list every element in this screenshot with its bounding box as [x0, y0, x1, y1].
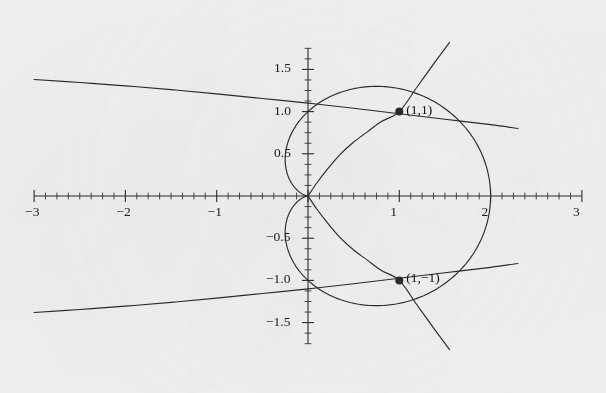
y-tick-label: 0.5	[274, 145, 291, 161]
annotation-label-intersection-upper: (1,1)	[406, 102, 432, 118]
y-tick-label: 1.0	[274, 103, 291, 119]
curve-rising-branch-through-origin	[308, 42, 450, 196]
x-tick-label: 3	[573, 204, 580, 220]
y-tick-label: −1.5	[266, 314, 291, 330]
x-tick-label: 1	[390, 204, 397, 220]
x-tick-label: −2	[116, 204, 130, 220]
x-tick-label: 2	[482, 204, 489, 220]
y-tick-label: −0.5	[266, 229, 291, 245]
marker-intersection-upper	[395, 108, 403, 116]
cartesian-plot-svg	[0, 0, 606, 393]
x-tick-label: −1	[208, 204, 222, 220]
marker-intersection-lower	[395, 276, 403, 284]
x-tick-label: −3	[25, 204, 39, 220]
y-tick-label: 1.5	[274, 60, 291, 76]
annotation-label-intersection-lower: (1,−1)	[406, 270, 439, 286]
y-tick-label: −1.0	[266, 271, 291, 287]
